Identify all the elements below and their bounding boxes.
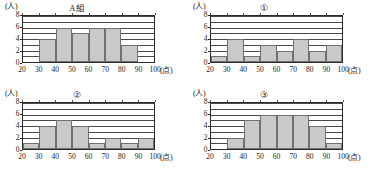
x-axis-tick-mark [122, 100, 123, 102]
x-axis-tick-label: 90 [323, 153, 331, 161]
x-axis-tick-mark [243, 13, 244, 15]
x-axis-tick-mark [227, 100, 228, 102]
histogram-bar [277, 115, 293, 150]
x-axis-tick-mark [155, 100, 156, 102]
histogram-bar [244, 56, 260, 62]
chart-title: ① [188, 3, 375, 13]
histogram-bar [23, 143, 39, 149]
histogram-bar [121, 143, 137, 149]
histogram-bar [326, 45, 342, 62]
x-axis-tick-label: 20 [18, 153, 26, 161]
y-axis-tick-mark [20, 27, 23, 28]
chart-panel-2: (人) ② 02468 2030405060708090100 (点) [0, 87, 188, 174]
x-axis-tick-label: 90 [135, 153, 143, 161]
x-axis-tick-label: 70 [289, 153, 297, 161]
x-axis-tick-label: 20 [18, 66, 26, 74]
bars [23, 103, 154, 149]
histogram-bar [105, 28, 121, 63]
x-axis-tick-label: 60 [273, 153, 281, 161]
x-axis-unit-label: (点) [348, 66, 360, 75]
x-axis-unit-label: (点) [160, 153, 172, 162]
x-axis-tick-label: 30 [35, 66, 43, 74]
x-axis-unit-label: (点) [160, 66, 172, 75]
histogram-bar [39, 126, 55, 149]
chart-panel-3: (人) ③ 02468 2030405060708090100 (点) [188, 87, 375, 174]
chart-panel-a-gumi: (人) A組 02468 2030405060708090100 (点) [0, 0, 188, 87]
y-axis-tick-mark [20, 126, 23, 127]
histogram-bar [293, 115, 309, 150]
histogram-bar [39, 39, 55, 62]
plot-frame [210, 15, 343, 63]
plot-frame [210, 102, 343, 150]
x-axis-tick-mark [310, 13, 311, 15]
x-axis-tick-label: 60 [273, 66, 281, 74]
y-axis-tick-mark [208, 63, 211, 64]
x-axis-tick-label: 90 [323, 66, 331, 74]
x-axis-tick-mark [39, 13, 40, 15]
x-axis-tick-label: 40 [52, 66, 60, 74]
chart-panel-1: (人) ① 02468 2030405060708090100 (点) [188, 0, 375, 87]
x-axis-tick-mark [210, 13, 211, 15]
x-axis-tick-mark [260, 13, 261, 15]
x-axis-tick-mark [293, 100, 294, 102]
x-axis-tick-mark [89, 100, 90, 102]
x-axis-tick-label: 90 [135, 66, 143, 74]
histogram-bar [244, 120, 260, 149]
histogram-bar [89, 143, 105, 149]
x-axis-tick-label: 30 [35, 153, 43, 161]
y-axis-tick-mark [20, 114, 23, 115]
x-axis-tick-mark [210, 100, 211, 102]
x-axis-tick-mark [243, 100, 244, 102]
y-axis-tick-mark [208, 126, 211, 127]
plot-frame [22, 15, 155, 63]
histogram-bar [293, 39, 309, 62]
x-axis-tick-label: 20 [206, 66, 214, 74]
histogram-bar [121, 45, 137, 62]
x-axis-tick-label: 70 [101, 66, 109, 74]
x-axis-tick-mark [293, 13, 294, 15]
y-axis-tick-mark [208, 150, 211, 151]
y-axis-tick-mark [208, 27, 211, 28]
x-axis-tick-mark [22, 100, 23, 102]
plot-area: 02468 2030405060708090100 [210, 15, 343, 63]
x-axis-tick-label: 100 [337, 153, 348, 161]
y-axis-tick-mark [20, 15, 23, 16]
y-axis-tick-mark [208, 15, 211, 16]
x-axis-tick-mark [138, 100, 139, 102]
histogram-bar [277, 51, 293, 63]
x-axis-tick-mark [277, 100, 278, 102]
x-axis-tick-mark [277, 13, 278, 15]
x-axis-tick-label: 50 [256, 66, 264, 74]
y-axis-tick-mark [208, 114, 211, 115]
bars [23, 16, 154, 62]
histogram-bar [56, 120, 72, 149]
x-axis-tick-label: 70 [101, 153, 109, 161]
x-axis-tick-mark [326, 13, 327, 15]
histogram-bar [227, 138, 243, 150]
x-axis-tick-label: 80 [306, 153, 314, 161]
x-axis-tick-mark [89, 13, 90, 15]
histogram-bar [72, 126, 88, 149]
x-axis-tick-mark [260, 100, 261, 102]
histogram-bar [211, 56, 227, 62]
x-axis-tick-mark [55, 100, 56, 102]
x-axis-tick-mark [122, 13, 123, 15]
x-axis-tick-mark [105, 13, 106, 15]
histogram-bar [309, 51, 325, 63]
x-axis-tick-label: 40 [52, 153, 60, 161]
plot-area: 02468 2030405060708090100 [22, 102, 155, 150]
x-axis-tick-mark [326, 100, 327, 102]
histogram-bar [309, 126, 325, 149]
x-axis-tick-mark [22, 13, 23, 15]
x-axis-tick-label: 50 [256, 153, 264, 161]
x-axis-tick-label: 20 [206, 153, 214, 161]
x-axis-unit-label: (点) [348, 153, 360, 162]
x-axis-tick-label: 50 [68, 153, 76, 161]
y-axis-tick-mark [20, 39, 23, 40]
chart-title: ③ [188, 90, 375, 100]
x-axis-tick-label: 60 [85, 153, 93, 161]
histogram-bar [326, 143, 342, 149]
x-axis-tick-mark [310, 100, 311, 102]
y-axis-tick-mark [20, 150, 23, 151]
x-axis-tick-mark [72, 100, 73, 102]
